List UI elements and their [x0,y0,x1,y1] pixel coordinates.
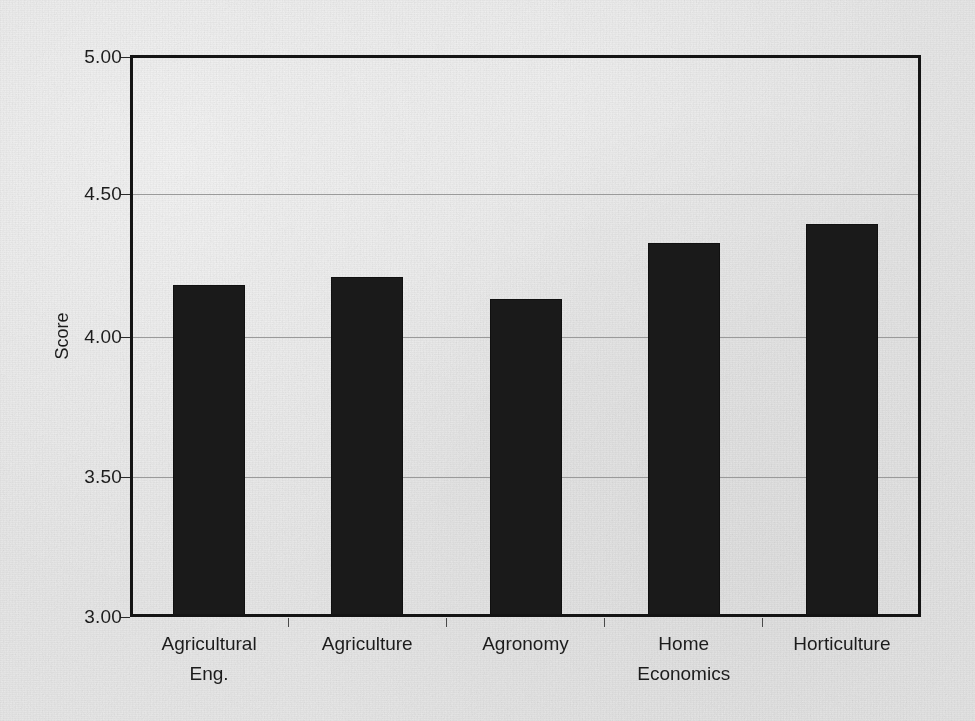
bar-chart: Score 5.00 4.50 4.00 3.50 3.00 Agricultu… [0,0,975,721]
x-axis-label: Agricultural Eng. [130,629,288,689]
x-axis-tick-mark [446,618,447,627]
y-axis-tick-mark [121,337,130,338]
x-axis-label: Horticulture [763,629,921,659]
x-axis-label: Home Economics [605,629,763,689]
y-axis-tick-4-50: 4.50 [0,183,122,205]
y-axis-tick-4-00: 4.00 [0,326,122,348]
y-axis-tick-label: 3.50 [12,466,122,488]
x-axis-tick-mark [288,618,289,627]
x-axis-label: Agronomy [446,629,604,659]
y-axis-tick-mark [121,194,130,195]
y-axis-tick-5-00: 5.00 [0,46,122,68]
x-axis-tick-mark [604,618,605,627]
y-axis-tick-label: 4.50 [12,183,122,205]
y-axis-tick-mark [121,617,130,618]
y-axis-tick-label: 5.00 [12,46,122,68]
y-axis-tick-label: 4.00 [12,326,122,348]
x-axis-tick-mark [762,618,763,627]
y-axis-tick-3-50: 3.50 [0,466,122,488]
plot-area-frame [130,55,921,617]
y-axis-tick-3-00: 3.00 [0,606,122,628]
y-axis-tick-mark [121,477,130,478]
y-axis-tick-mark [121,57,130,58]
y-axis-tick-label: 3.00 [12,606,122,628]
x-axis-label: Agriculture [288,629,446,659]
